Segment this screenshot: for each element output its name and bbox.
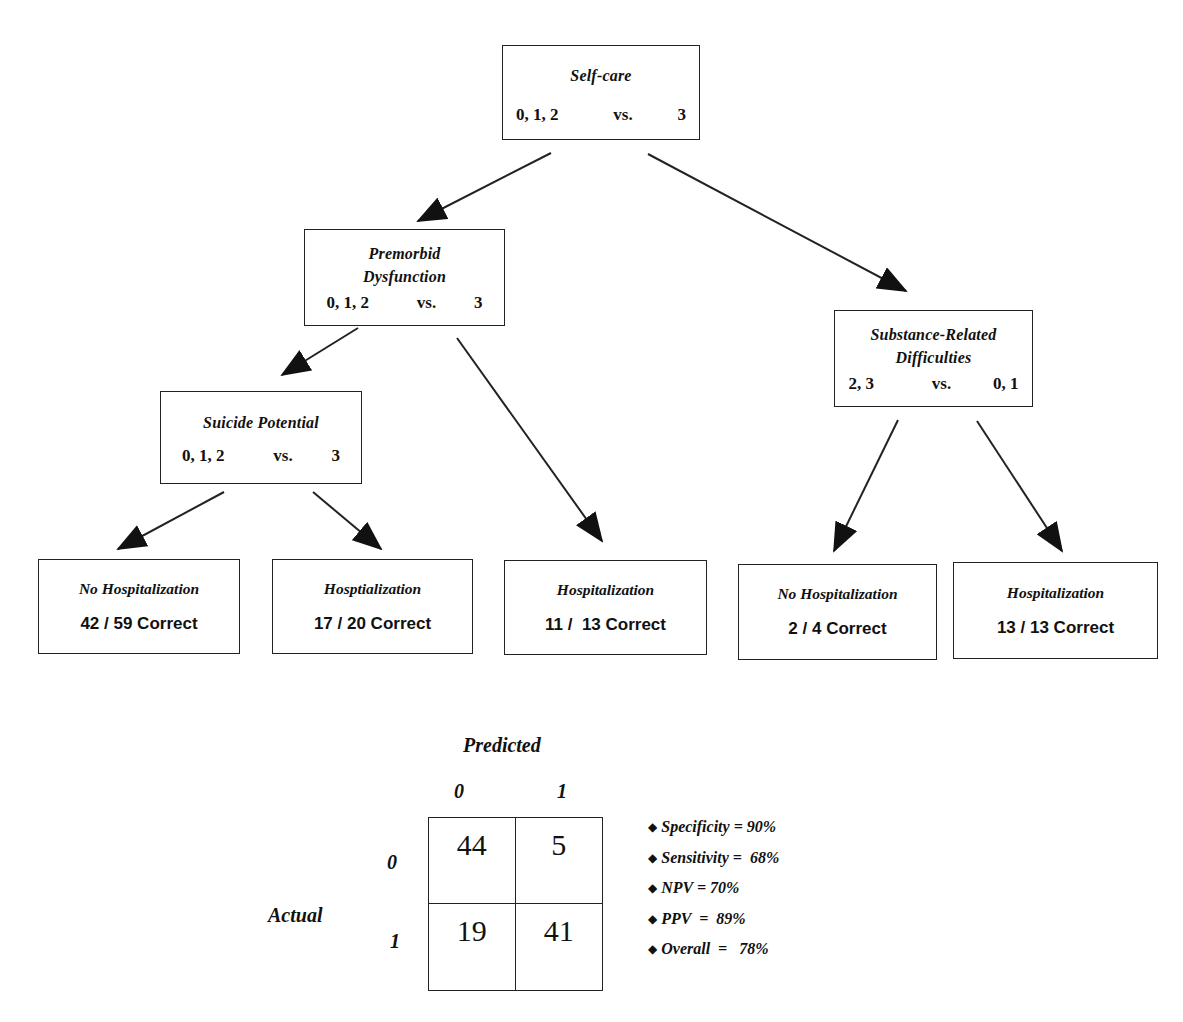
predicted-col-header-0: 0: [454, 780, 464, 803]
node-self-care: Self-care 0, 1, 2 vs. 3: [502, 45, 700, 140]
confusion-matrix: 44 5 19 41: [428, 817, 603, 991]
leaf-title: Hosptialization: [324, 580, 421, 598]
arrow-substance-to-leaf5: [977, 421, 1062, 551]
split-left: 2, 3: [849, 374, 875, 394]
arrow-premorbid-to-suicide: [282, 328, 358, 375]
diamond-bullet-icon: ◆: [648, 820, 657, 834]
leaf-hospitalization-3: Hospitalization 11 / 13 Correct: [504, 560, 707, 655]
metric-overall: ◆Overall = 78%: [648, 934, 779, 965]
node-suicide-potential: Suicide Potential 0, 1, 2 vs. 3: [160, 391, 362, 484]
metric-ppv: ◆PPV = 89%: [648, 904, 779, 935]
diamond-bullet-icon: ◆: [648, 942, 657, 956]
split-right: 0, 1: [993, 374, 1019, 394]
actual-axis-label: Actual: [268, 904, 322, 927]
split-left: 0, 1, 2: [182, 446, 225, 466]
leaf-count: 42 / 59 Correct: [80, 614, 197, 634]
leaf-title: No Hospitalization: [79, 580, 199, 598]
leaf-count: 13 / 13 Correct: [997, 618, 1114, 638]
split-right: 3: [678, 105, 687, 125]
leaf-count: 2 / 4 Correct: [788, 619, 886, 639]
leaf-no-hospitalization-1: No Hospitalization 42 / 59 Correct: [38, 559, 240, 654]
node-title: Self-care: [570, 64, 631, 87]
node-title-line1: Substance-Related: [870, 323, 996, 346]
leaf-count: 17 / 20 Correct: [314, 614, 431, 634]
cm-cell-true-positive: 41: [516, 904, 603, 990]
split-left: 0, 1, 2: [327, 293, 370, 313]
leaf-title: Hospitalization: [557, 581, 654, 599]
leaf-no-hospitalization-4: No Hospitalization 2 / 4 Correct: [738, 564, 937, 660]
leaf-hospitalization-2: Hosptialization 17 / 20 Correct: [272, 559, 473, 654]
arrow-substance-to-leaf4: [834, 420, 898, 551]
metric-npv: ◆NPV = 70%: [648, 873, 779, 904]
leaf-title: Hospitalization: [1007, 584, 1104, 602]
node-split: 0, 1, 2 vs. 3: [516, 105, 686, 125]
cm-cell-true-negative: 44: [429, 818, 516, 904]
actual-row-header-1: 1: [390, 930, 400, 953]
metrics-list: ◆Specificity = 90% ◆Sensitivity = 68% ◆N…: [648, 812, 779, 965]
split-vs: vs.: [417, 293, 436, 313]
arrow-root-to-substance: [648, 154, 906, 291]
arrow-premorbid-to-leaf3: [457, 338, 602, 541]
node-split: 2, 3 vs. 0, 1: [849, 374, 1019, 394]
metric-text: PPV = 89%: [661, 910, 745, 927]
split-vs: vs.: [273, 446, 292, 466]
node-title-line2: Difficulties: [896, 346, 972, 369]
node-split: 0, 1, 2 vs. 3: [182, 446, 340, 466]
predicted-axis-label: Predicted: [463, 734, 541, 757]
cm-cell-false-positive: 5: [516, 818, 603, 904]
arrow-suicide-to-leaf1: [118, 492, 224, 549]
node-premorbid-dysfunction: Premorbid Dysfunction 0, 1, 2 vs. 3: [304, 229, 505, 326]
node-title-line1: Premorbid: [368, 242, 440, 265]
arrow-root-to-premorbid: [418, 153, 551, 221]
diamond-bullet-icon: ◆: [648, 881, 657, 895]
node-title: Suicide Potential: [203, 411, 319, 434]
actual-row-header-0: 0: [387, 851, 397, 874]
split-right: 3: [474, 293, 483, 313]
node-title-line2: Dysfunction: [363, 265, 446, 288]
metric-text: NPV = 70%: [661, 879, 739, 896]
split-vs: vs.: [932, 374, 951, 394]
arrow-suicide-to-leaf2: [313, 492, 381, 549]
split-vs: vs.: [613, 105, 632, 125]
predicted-col-header-1: 1: [557, 780, 567, 803]
leaf-count: 11 / 13 Correct: [545, 615, 666, 635]
metric-text: Overall = 78%: [661, 940, 768, 957]
node-substance-related-difficulties: Substance-Related Difficulties 2, 3 vs. …: [834, 310, 1033, 407]
metric-specificity: ◆Specificity = 90%: [648, 812, 779, 843]
leaf-title: No Hospitalization: [777, 585, 897, 603]
diamond-bullet-icon: ◆: [648, 912, 657, 926]
split-left: 0, 1, 2: [516, 105, 559, 125]
metric-sensitivity: ◆Sensitivity = 68%: [648, 843, 779, 874]
node-split: 0, 1, 2 vs. 3: [327, 293, 483, 313]
cm-cell-false-negative: 19: [429, 904, 516, 990]
metric-text: Specificity = 90%: [661, 818, 776, 835]
metric-text: Sensitivity = 68%: [661, 849, 779, 866]
split-right: 3: [332, 446, 341, 466]
leaf-hospitalization-5: Hospitalization 13 / 13 Correct: [953, 562, 1158, 659]
diamond-bullet-icon: ◆: [648, 851, 657, 865]
